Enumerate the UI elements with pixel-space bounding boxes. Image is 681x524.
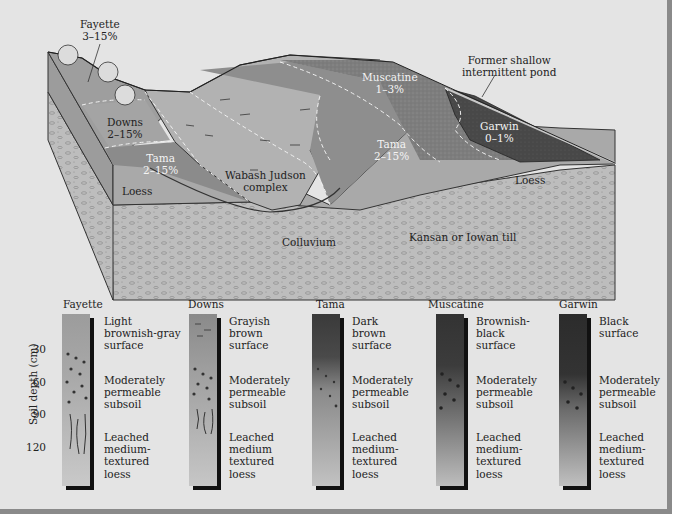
label-colluvium: Colluvium bbox=[282, 236, 336, 248]
profile-title: Downs bbox=[188, 298, 224, 310]
profile-desc-surface: Lightbrownish-graysurface bbox=[104, 315, 184, 352]
label-till: Kansan or Iowan till bbox=[409, 231, 516, 243]
profile-desc-parent: Leachedmedium-texturedloess bbox=[104, 431, 184, 480]
label-loess-left: Loess bbox=[122, 185, 152, 197]
tick-90: 90 bbox=[20, 408, 46, 420]
profile-column bbox=[62, 314, 90, 486]
profile-title: Fayette bbox=[63, 298, 103, 310]
profile-column bbox=[312, 314, 340, 486]
profile-title: Garwin bbox=[559, 298, 598, 310]
tick-120: 120 bbox=[20, 441, 46, 453]
label-garwin: Garwin0–1% bbox=[480, 120, 519, 144]
tick-60: 60 bbox=[20, 376, 46, 388]
profile-title: Muscatine bbox=[428, 298, 484, 310]
label-wabash-judson: Wabash Judsoncomplex bbox=[225, 169, 306, 193]
profile-desc-subsoil: Moderatelypermeablesubsoil bbox=[104, 374, 184, 411]
label-downs: Downs2–15% bbox=[107, 116, 143, 140]
label-tama-left: Tama2–15% bbox=[143, 152, 178, 176]
label-fayette: Fayette3–15% bbox=[80, 18, 120, 42]
profile-title: Tama bbox=[316, 298, 345, 310]
tick-30: 30 bbox=[20, 343, 46, 355]
label-loess-right: Loess bbox=[515, 174, 545, 186]
label-former-pond: Former shallowintermittent pond bbox=[462, 54, 556, 78]
profile-column bbox=[189, 314, 217, 486]
profile-column bbox=[436, 314, 464, 486]
label-tama-right: Tama2–15% bbox=[374, 138, 409, 162]
label-muscatine: Muscatine1–3% bbox=[362, 71, 418, 95]
profile-column bbox=[559, 314, 587, 486]
